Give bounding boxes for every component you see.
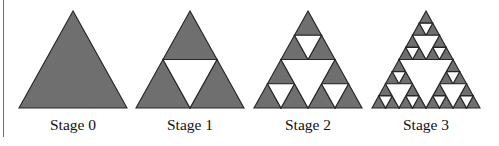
filled-triangle — [163, 11, 217, 60]
sierpinski-stage-1 — [136, 11, 244, 108]
sierpinski-stage-0 — [19, 11, 127, 108]
stage-0-label: Stage 0 — [13, 116, 133, 134]
sierpinski-stage-3 — [372, 11, 480, 108]
filled-triangle — [295, 11, 322, 35]
filled-triangle — [19, 11, 127, 108]
filled-triangle — [419, 11, 433, 23]
stage-3-label: Stage 3 — [366, 116, 486, 134]
sierpinski-stage-2 — [254, 11, 362, 108]
stage-2-label: Stage 2 — [248, 116, 368, 134]
stage-1-label: Stage 1 — [130, 116, 250, 134]
